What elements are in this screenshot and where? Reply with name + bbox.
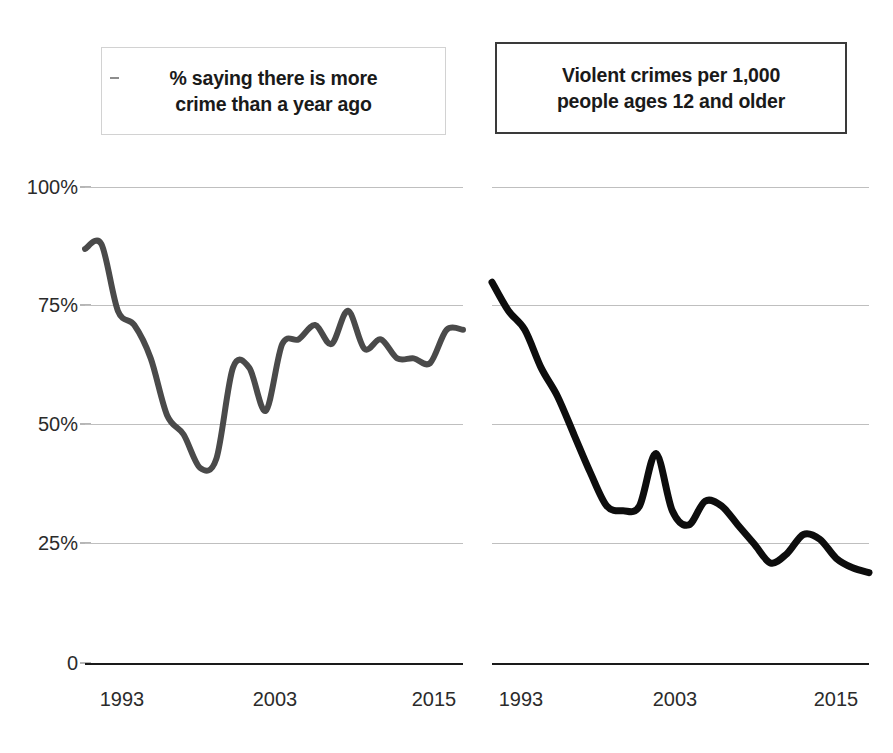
panel-title-box-right: Violent crimes per 1,000 people ages 12 … — [495, 42, 847, 134]
line-series-right — [492, 282, 869, 572]
panel-title-left: % saying there is more crime than a year… — [169, 65, 377, 117]
panel-title-right: Violent crimes per 1,000 people ages 12 … — [557, 62, 785, 114]
x-axis-label-right-2003: 2003 — [653, 688, 698, 711]
dash-icon — [110, 77, 119, 79]
y-axis-label-0: 0 — [6, 652, 78, 675]
plot-area-left — [85, 180, 463, 670]
y-axis-label-50: 50% — [6, 413, 78, 436]
line-series-left-svg — [85, 180, 463, 670]
x-axis-label-left-1993: 1993 — [100, 688, 145, 711]
x-axis-label-right-1993: 1993 — [499, 688, 544, 711]
line-series-right-svg — [492, 180, 869, 670]
y-axis-label-25: 25% — [6, 532, 78, 555]
panel-title-box-left: % saying there is more crime than a year… — [101, 47, 446, 135]
plot-area-right — [492, 180, 869, 670]
chart-canvas: % saying there is more crime than a year… — [0, 0, 893, 753]
x-axis-label-right-2015: 2015 — [814, 688, 859, 711]
y-axis-label-100: 100% — [6, 176, 78, 199]
y-axis: 100% 75% 50% 25% 0 — [0, 180, 78, 670]
x-axis-label-left-2015: 2015 — [412, 688, 457, 711]
y-axis-label-75: 75% — [6, 294, 78, 317]
x-axis-label-left-2003: 2003 — [253, 688, 298, 711]
line-series-left — [85, 241, 463, 471]
